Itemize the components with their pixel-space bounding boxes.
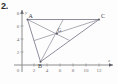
y-tick-label-8: 8 <box>17 11 20 16</box>
y-axis-arrowhead <box>20 10 23 14</box>
centroid-point <box>56 33 58 35</box>
x-axis-arrowhead <box>109 63 113 66</box>
x-tick-label-2: 2 <box>33 68 36 73</box>
vertex-label-c: C <box>101 13 105 19</box>
y-tick-label-4: 4 <box>17 37 20 42</box>
coordinate-plot: 2 4 6 8 10 12 2 4 6 8 y x 0 <box>0 0 118 84</box>
y-tick-label-2: 2 <box>17 50 20 55</box>
geometry-figure: 2. 2 4 6 8 10 12 <box>0 0 118 84</box>
centroid-label: G <box>58 27 62 33</box>
triangle-side-bc <box>41 20 100 62</box>
x-tick-label-10: 10 <box>84 68 90 73</box>
triangle-abc <box>28 20 100 62</box>
vertex-label-b: B <box>38 63 42 69</box>
y-tick-label-6: 6 <box>17 24 20 29</box>
x-tick-label-12: 12 <box>97 68 103 73</box>
triangle-side-ab <box>28 20 41 62</box>
x-tick-label-8: 8 <box>72 68 75 73</box>
x-tick-label-6: 6 <box>59 68 62 73</box>
y-axis-name-label: y <box>24 10 28 15</box>
vertex-label-a: A <box>29 13 34 19</box>
median-from-a <box>28 20 70 41</box>
x-tick-label-4: 4 <box>46 68 49 73</box>
median-from-c <box>34 20 99 41</box>
x-axis-name-label: x <box>107 58 111 63</box>
origin-label: 0 <box>17 68 20 73</box>
vertex-point-c <box>98 19 100 21</box>
